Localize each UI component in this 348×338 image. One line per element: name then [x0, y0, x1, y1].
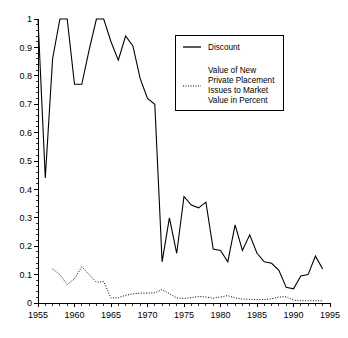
chart-figure: 00.10.20.30.40.50.60.70.80.91 1955196019…	[0, 0, 348, 338]
y-tick-label: 0.7	[19, 99, 32, 109]
y-tick-label: 0.8	[19, 71, 32, 81]
x-tick-label: 1955	[28, 310, 48, 320]
chart-legend: Discount Value of New Private Placement …	[176, 36, 284, 111]
x-tick-label: 1995	[320, 310, 340, 320]
line-chart-canvas: 00.10.20.30.40.50.60.70.80.91 1955196019…	[0, 0, 348, 338]
x-tick-label: 1975	[174, 310, 194, 320]
series-line-private-placement	[53, 267, 323, 301]
legend-label-private-placement-line-4: Value in Percent	[208, 96, 268, 105]
y-tick-label: 0.4	[19, 185, 32, 195]
y-axis-tick-marks	[34, 19, 38, 303]
y-axis-tick-labels: 00.10.20.30.40.50.60.70.80.91	[19, 14, 32, 308]
legend-label-private-placement-line-3: Issues to Market	[208, 86, 269, 95]
x-tick-label: 1980	[210, 310, 230, 320]
x-tick-label: 1990	[283, 310, 303, 320]
x-tick-label: 1965	[101, 310, 121, 320]
y-tick-label: 0.2	[19, 241, 32, 251]
x-tick-label: 1960	[64, 310, 84, 320]
y-tick-label: 0.6	[19, 128, 32, 138]
legend-label-discount: Discount	[208, 43, 241, 52]
y-tick-label: 0.3	[19, 213, 32, 223]
x-axis-tick-labels: 195519601965197019751980198519901995	[28, 310, 340, 320]
x-tick-label: 1970	[137, 310, 157, 320]
x-tick-label: 1985	[247, 310, 267, 320]
y-tick-label: 0.9	[19, 43, 32, 53]
y-tick-label: 1	[27, 14, 32, 24]
y-tick-label: 0.5	[19, 156, 32, 166]
legend-label-private-placement-line-1: Value of New	[208, 66, 256, 75]
y-tick-label: 0.1	[19, 270, 32, 280]
y-tick-label: 0	[27, 298, 32, 308]
legend-label-private-placement-line-2: Private Placement	[208, 76, 275, 85]
